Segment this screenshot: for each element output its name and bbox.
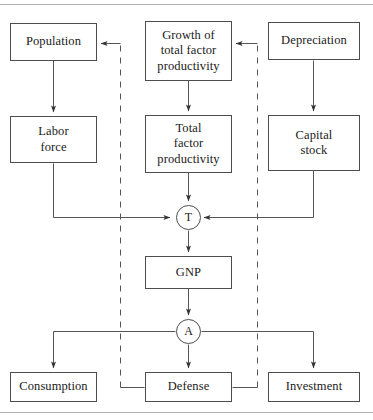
node-capital-stock-label: Capitalstock bbox=[290, 128, 339, 159]
tfp-line3: productivity bbox=[154, 152, 222, 167]
tfp-line1: Total bbox=[154, 121, 222, 136]
growth-tfp-line2: total factor bbox=[154, 43, 222, 58]
top-divider-rule bbox=[0, 4, 373, 5]
node-defense-label: Defense bbox=[165, 379, 213, 394]
node-labor-force[interactable]: Laborforce bbox=[10, 116, 97, 163]
junction-allocation-a[interactable]: A bbox=[176, 319, 201, 344]
bottom-divider-rule bbox=[0, 412, 373, 413]
capital-stock-line2: stock bbox=[293, 143, 336, 158]
node-gnp-label: GNP bbox=[173, 265, 204, 280]
node-growth-of-total-factor-productivity[interactable]: Growth oftotal factorproductivity bbox=[145, 21, 232, 81]
junction-allocation-a-label: A bbox=[184, 324, 193, 339]
node-depreciation-label: Depreciation bbox=[278, 33, 350, 48]
node-total-factor-productivity[interactable]: Totalfactorproductivity bbox=[145, 115, 232, 173]
node-total-factor-productivity-label: Totalfactorproductivity bbox=[151, 121, 225, 167]
junction-production-t[interactable]: T bbox=[176, 205, 201, 230]
edge-capital-stock-to-production-junction bbox=[204, 171, 314, 218]
edge-allocation-to-consumption bbox=[54, 332, 176, 369]
growth-tfp-line1: Growth of bbox=[154, 28, 222, 43]
node-growth-of-total-factor-productivity-label: Growth oftotal factorproductivity bbox=[151, 28, 225, 74]
node-consumption-label: Consumption bbox=[16, 379, 90, 394]
node-investment-label: Investment bbox=[283, 379, 346, 394]
node-depreciation[interactable]: Depreciation bbox=[268, 22, 360, 60]
node-capital-stock[interactable]: Capitalstock bbox=[268, 115, 360, 171]
labor-force-line1: Labor bbox=[35, 124, 71, 139]
node-investment[interactable]: Investment bbox=[268, 372, 360, 402]
flow-diagram-figure: Population Growth oftotal factorproducti… bbox=[0, 0, 373, 420]
junction-production-t-label: T bbox=[185, 210, 192, 225]
node-defense[interactable]: Defense bbox=[145, 372, 232, 402]
labor-force-line2: force bbox=[35, 140, 71, 155]
node-labor-force-label: Laborforce bbox=[32, 124, 74, 155]
node-gnp[interactable]: GNP bbox=[145, 256, 232, 289]
node-population[interactable]: Population bbox=[10, 23, 97, 61]
capital-stock-line1: Capital bbox=[293, 128, 336, 143]
growth-tfp-line3: productivity bbox=[154, 59, 222, 74]
node-consumption[interactable]: Consumption bbox=[10, 372, 97, 402]
tfp-line2: factor bbox=[154, 136, 222, 151]
node-population-label: Population bbox=[23, 34, 84, 49]
